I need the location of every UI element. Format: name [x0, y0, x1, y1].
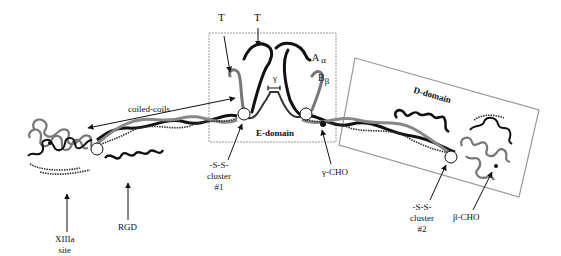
label-beta-sub: β	[325, 76, 330, 86]
label-b: B	[318, 72, 325, 83]
d-domain-box	[339, 58, 539, 197]
label-a: A	[312, 52, 319, 63]
xiiia-line1: XIIIa	[55, 234, 75, 245]
label-ss-cluster-1: -S-S- cluster #1	[207, 160, 231, 193]
arrow-t-left	[224, 36, 230, 72]
rgd-chain	[105, 150, 163, 159]
beta-cho-dot	[494, 164, 498, 168]
coiled-coil-left	[97, 115, 237, 146]
ss-node-left-d	[91, 143, 103, 155]
ss-cluster-e-right-node	[300, 108, 312, 120]
ss2-line3: #2	[410, 224, 434, 235]
label-xiiia-site: XIIIa site	[55, 234, 75, 256]
label-e-domain: E-domain	[256, 128, 294, 139]
label-a-alpha: A α	[312, 52, 326, 64]
ss1-line2: cluster	[207, 171, 231, 182]
label-coiled-coils: coiled-coils	[128, 104, 170, 115]
label-gamma: γ	[273, 73, 277, 84]
label-t-left: T	[218, 12, 225, 23]
label-t-center: T	[254, 12, 261, 23]
label-rgd: RGD	[118, 222, 137, 233]
label-b-beta: Bβ	[318, 72, 329, 84]
label-alpha-sub: α	[321, 55, 326, 65]
right-d-alpha-chain	[395, 110, 449, 132]
ss2-line2: cluster	[410, 213, 434, 224]
xiiia-line2: site	[55, 245, 75, 256]
ss-cluster-1-node	[238, 108, 250, 120]
ss-cluster-2-node	[445, 151, 457, 163]
ss1-line3: #1	[207, 182, 231, 193]
left-d-domain-globule	[28, 120, 95, 175]
ss1-line1: -S-S-	[207, 160, 231, 171]
label-beta-cho: β-CHO	[453, 212, 480, 223]
label-gamma-cho: γ-CHO	[322, 167, 348, 178]
arrow-ss-cluster-2	[430, 165, 446, 200]
arrow-gamma-cho	[322, 130, 331, 164]
coiled-coil-right	[302, 115, 455, 156]
label-ss-cluster-2: -S-S- cluster #2	[410, 202, 434, 235]
cho-dot-left	[48, 141, 52, 145]
ss2-line1: -S-S-	[410, 202, 434, 213]
gamma-cho-dot	[320, 121, 326, 127]
right-d-domain-globule	[461, 115, 512, 180]
arrow-ss-cluster-1	[228, 124, 242, 160]
